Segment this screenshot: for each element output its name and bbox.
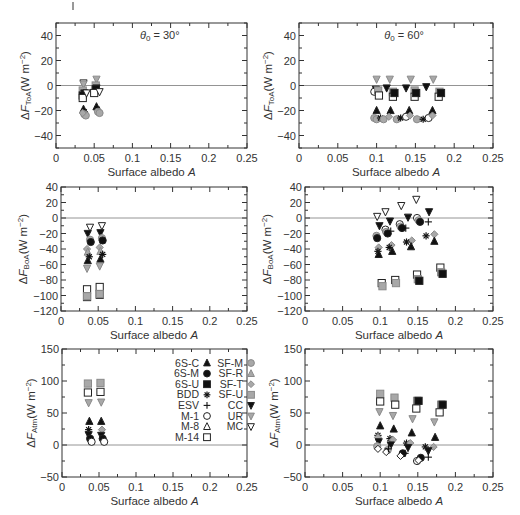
legend-label: M-14 xyxy=(175,431,199,443)
marker-triangle-down xyxy=(374,213,381,220)
y-tick-label: −20 xyxy=(277,105,296,117)
x-axis-title: Surface albedo A xyxy=(110,329,199,341)
marker-asterisk xyxy=(204,391,211,398)
marker-square xyxy=(97,388,104,395)
x-tick-label: 0.1 xyxy=(373,315,388,327)
x-axis-title: Surface albedo A xyxy=(352,166,441,178)
marker-triangle-down xyxy=(398,203,405,210)
marker-triangle-down xyxy=(389,412,396,419)
y-tick-label: 20 xyxy=(290,197,302,209)
marker-triangle-down xyxy=(431,419,438,426)
y-tick-label: −80 xyxy=(39,274,58,286)
y-tick-label: −120 xyxy=(277,305,302,317)
y-tick-label: 40 xyxy=(290,181,302,193)
marker-circle xyxy=(99,237,106,244)
marker-square xyxy=(436,409,443,416)
x-axis-title: Surface albedo A xyxy=(355,495,444,507)
marker-square xyxy=(96,290,103,297)
y-tick-label: 0 xyxy=(52,212,58,224)
marker-circle xyxy=(88,438,95,445)
marker-square xyxy=(379,283,386,290)
marker-square xyxy=(96,283,103,290)
legend-item-mc: MC xyxy=(227,420,255,432)
y-tick-label: −50 xyxy=(40,471,59,483)
x-tick-label: 0.1 xyxy=(128,481,143,493)
y-tick-label: −60 xyxy=(39,259,58,271)
marker-circle xyxy=(416,218,423,225)
marker-diamond xyxy=(248,381,255,388)
data-points xyxy=(371,76,445,123)
data-points xyxy=(79,76,103,119)
data-points xyxy=(84,379,107,445)
x-tick-label: 0.15 xyxy=(405,152,426,164)
x-axis-title: Surface albedo A xyxy=(107,166,196,178)
marker-triangle-up xyxy=(248,370,255,377)
marker-square xyxy=(439,270,446,277)
marker-square xyxy=(439,401,446,408)
x-tick-label: 0.05 xyxy=(327,152,348,164)
y-tick-label: 20 xyxy=(284,55,296,67)
y-tick-label: 0 xyxy=(290,80,296,92)
marker-triangle-down xyxy=(373,76,380,83)
marker-square xyxy=(413,89,420,96)
x-tick-label: 0.05 xyxy=(88,481,109,493)
marker-square xyxy=(97,379,104,386)
marker-triangle-up xyxy=(204,423,211,430)
y-tick-label: −40 xyxy=(283,243,302,255)
marker-triangle-up xyxy=(377,422,384,429)
marker-square xyxy=(415,397,422,404)
x-tick-label: 0.25 xyxy=(236,152,257,164)
panels: 00.050.10.150.20.25−40−2002040Surface al… xyxy=(16,23,504,507)
x-tick-label: 0 xyxy=(59,481,65,493)
panel-middle-right: 00.050.10.150.20.25−120−100−80−60−40−200… xyxy=(260,181,504,341)
marker-square xyxy=(83,286,90,293)
x-tick-label: 0.1 xyxy=(125,152,140,164)
marker-triangle-up xyxy=(86,417,93,424)
plot-canvas: 00.050.10.150.20.25−40−2002040Surface al… xyxy=(0,0,520,515)
marker-triangle-up xyxy=(387,106,394,113)
marker-triangle-down xyxy=(386,218,393,225)
x-tick-label: 0.1 xyxy=(369,152,384,164)
x-tick-label: 0.25 xyxy=(482,152,503,164)
y-axis-title: ΔFToA(W m−2) xyxy=(18,51,33,120)
marker-square xyxy=(248,391,255,398)
marker-asterisk xyxy=(422,232,429,239)
marker-triangle-down xyxy=(248,413,255,420)
y-tick-label: 0 xyxy=(53,439,59,451)
x-tick-label: 0.2 xyxy=(448,481,463,493)
y-tick-label: −20 xyxy=(39,228,58,240)
x-tick-label: 0.05 xyxy=(83,152,104,164)
y-tick-label: 150 xyxy=(41,343,59,355)
x-tick-label: 0.25 xyxy=(236,481,257,493)
x-tick-label: 0.25 xyxy=(236,315,257,327)
marker-triangle-down xyxy=(248,403,255,410)
x-tick-label: 0 xyxy=(296,152,302,164)
x-tick-label: 0.15 xyxy=(407,315,428,327)
y-tick-label: −20 xyxy=(34,105,53,117)
marker-square xyxy=(84,380,91,387)
x-tick-label: 0.1 xyxy=(128,315,143,327)
solar-zenith-annotation: θ0 = 60° xyxy=(384,29,424,43)
y-axis-title: ΔFBoA(W m−2) xyxy=(16,214,31,284)
panel-middle-left: 00.050.10.150.20.25−120−100−80−60−40−200… xyxy=(16,181,258,341)
y-tick-label: 0 xyxy=(47,80,53,92)
marker-square xyxy=(204,434,211,441)
marker-triangle-down xyxy=(413,196,420,203)
x-tick-label: 0.15 xyxy=(160,152,181,164)
marker-triangle-up xyxy=(373,106,380,113)
data-points xyxy=(83,223,106,301)
x-tick-label: 0.05 xyxy=(332,315,353,327)
y-tick-label: −20 xyxy=(283,228,302,240)
marker-triangle-down xyxy=(409,416,416,423)
y-tick-label: −40 xyxy=(39,243,58,255)
marker-triangle-up xyxy=(390,425,397,432)
x-tick-label: 0 xyxy=(302,481,308,493)
y-axis-title: ΔFToA(W m−2) xyxy=(261,51,276,120)
y-tick-label: 40 xyxy=(41,30,53,42)
y-axis-title: ΔFBoA(W m−2) xyxy=(260,214,275,284)
y-tick-label: 100 xyxy=(284,375,302,387)
x-tick-label: 0.15 xyxy=(162,315,183,327)
y-axis-title: ΔFAtm(W m−2) xyxy=(24,378,39,448)
solar-zenith-annotation: θ0 = 30° xyxy=(140,29,180,43)
marker-square xyxy=(392,280,399,287)
